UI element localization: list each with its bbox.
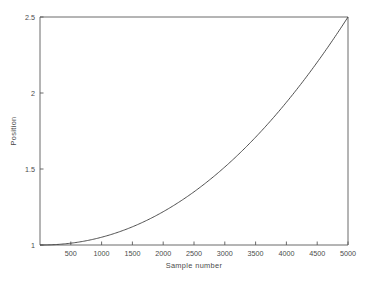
y-tick-label: 1 (31, 241, 35, 250)
figure-container: 500100015002000250030003500400045005000 … (0, 0, 368, 281)
line-chart: 500100015002000250030003500400045005000 … (0, 0, 368, 281)
x-tick-label: 2500 (186, 249, 202, 258)
x-tick-label: 500 (65, 249, 77, 258)
chart-background (0, 0, 368, 281)
y-tick-label: 2 (31, 89, 35, 98)
x-tick-label: 3500 (248, 249, 264, 258)
x-tick-label: 4500 (309, 249, 325, 258)
y-tick-label: 1.5 (25, 165, 35, 174)
x-tick-label: 1000 (94, 249, 110, 258)
y-tick-label: 2.5 (25, 13, 35, 22)
x-tick-label: 2000 (155, 249, 171, 258)
y-axis-title: Position (9, 116, 18, 145)
x-tick-label: 4000 (278, 249, 294, 258)
x-tick-label: 5000 (340, 249, 356, 258)
x-tick-label: 3000 (217, 249, 233, 258)
x-axis-title: Sample number (166, 261, 223, 270)
x-tick-label: 1500 (124, 249, 140, 258)
